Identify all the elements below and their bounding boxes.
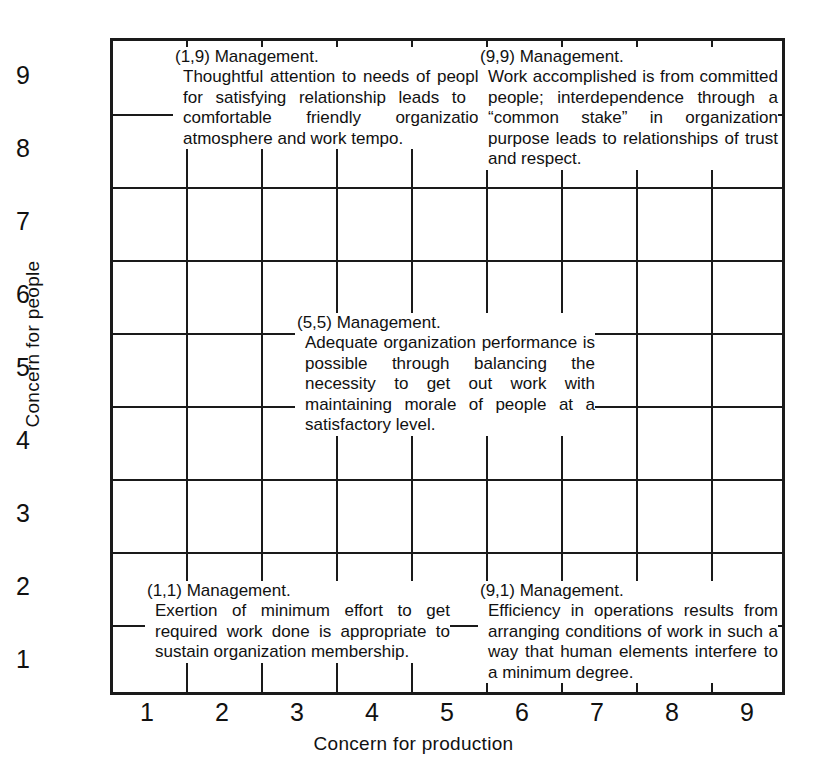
grid-hline xyxy=(113,187,782,189)
grid-hline xyxy=(113,552,782,554)
x-tick-3: 3 xyxy=(277,700,317,725)
x-tick-7: 7 xyxy=(577,700,617,725)
y-tick-9: 9 xyxy=(0,63,30,88)
y-tick-1: 1 xyxy=(0,647,30,672)
x-tick-9: 9 xyxy=(727,700,767,725)
x-tick-2: 2 xyxy=(202,700,242,725)
callout-9-9: (9,9) Management. Work accomplished is f… xyxy=(478,47,778,170)
y-axis-title: Concern for people xyxy=(22,144,44,544)
x-tick-5: 5 xyxy=(427,700,467,725)
x-tick-1: 1 xyxy=(127,700,167,725)
callout-9-1: (9,1) Management. Efficiency in operatio… xyxy=(478,581,778,683)
x-tick-6: 6 xyxy=(502,700,542,725)
callout-5-5-body: Adequate organization performance is pos… xyxy=(295,333,595,436)
x-tick-8: 8 xyxy=(652,700,692,725)
callout-9-1-body: Efficiency in operations results from ar… xyxy=(478,601,778,683)
callout-9-9-heading: (9,9) Management. xyxy=(478,47,778,67)
callout-5-5-heading: (5,5) Management. xyxy=(295,313,595,333)
x-tick-4: 4 xyxy=(352,700,392,725)
grid-hline xyxy=(113,479,782,481)
grid-hline xyxy=(113,260,782,262)
callout-5-5: (5,5) Management. Adequate organization … xyxy=(295,313,595,436)
callout-9-1-heading: (9,1) Management. xyxy=(478,581,778,601)
y-tick-2: 2 xyxy=(0,574,30,599)
callout-1-1: (1,1) Management. Exertion of minimum ef… xyxy=(145,581,450,663)
x-axis-title: Concern for production xyxy=(0,733,827,755)
callout-1-9-body: Thoughtful attention to needs of people … xyxy=(173,67,488,149)
callout-9-9-body: Work accomplished is from committed peop… xyxy=(478,67,778,170)
managerial-grid-plot: (1,9) Management. Thoughtful attention t… xyxy=(110,38,785,695)
callout-1-1-body: Exertion of minimum effort to get requir… xyxy=(145,601,450,663)
callout-1-9-heading: (1,9) Management. xyxy=(173,47,488,67)
callout-1-1-heading: (1,1) Management. xyxy=(145,581,450,601)
callout-1-9: (1,9) Management. Thoughtful attention t… xyxy=(173,47,488,149)
